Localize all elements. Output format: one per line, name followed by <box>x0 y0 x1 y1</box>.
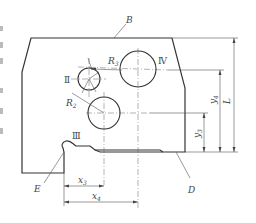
d-leader <box>176 152 190 178</box>
edge-b-label: B <box>125 15 133 25</box>
technical-drawing: R3 R2 Ⅱ Ⅲ Ⅳ B D E x3 x4 <box>0 0 256 223</box>
l-label: L <box>222 98 232 105</box>
margin-text-fragments <box>0 26 3 134</box>
x-dimensions <box>64 173 138 206</box>
b-leader <box>114 24 126 38</box>
hole-iv-label: Ⅳ <box>158 56 168 66</box>
hole-iii-label: Ⅲ <box>72 131 81 141</box>
r2-label: R2 <box>65 98 77 109</box>
notch-e-label: E <box>33 184 41 194</box>
r3-label: R3 <box>107 56 119 67</box>
edge-d-label: D <box>187 185 195 195</box>
y4-label: y4 <box>208 95 219 105</box>
x3-label: x3 <box>78 175 87 186</box>
hole-ii-label: Ⅱ <box>64 75 70 85</box>
x4-label: x4 <box>92 191 101 202</box>
y3-label: y3 <box>192 129 203 139</box>
e-leader <box>44 152 64 183</box>
